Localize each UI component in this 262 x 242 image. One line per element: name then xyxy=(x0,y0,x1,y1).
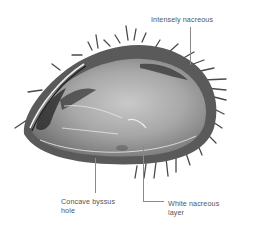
leader-line-byssus-hole xyxy=(95,158,96,193)
shell-diagram: Intensely nacreous Concave byssus hole W… xyxy=(0,0,262,242)
leader-line-intensely-nacreous xyxy=(190,27,191,65)
label-intensely-nacreous: Intensely nacreous xyxy=(151,15,213,24)
leader-line-white-nacreous-vertical xyxy=(143,146,144,201)
label-text: Intensely nacreous xyxy=(151,15,213,24)
label-white-nacreous-layer: White nacreous layer xyxy=(168,199,219,217)
nacreous-interior xyxy=(32,59,206,157)
label-line-1: Concave byssus xyxy=(61,197,115,206)
shell-image xyxy=(0,0,262,242)
label-line-2: hole xyxy=(61,206,115,215)
leader-line-white-nacreous-horizontal xyxy=(143,201,164,202)
label-concave-byssus-hole: Concave byssus hole xyxy=(61,197,115,215)
label-line-1: White nacreous xyxy=(168,199,219,208)
label-line-2: layer xyxy=(168,208,219,217)
